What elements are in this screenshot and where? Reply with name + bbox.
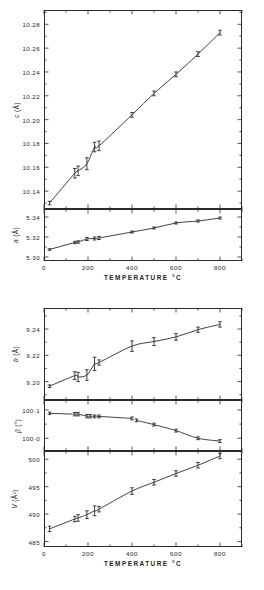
figure-top-group: c (Å) 10.1410.1610.1810.2010.2210.2410.2… (0, 0, 264, 292)
y-axis-label-b: b (Å) (13, 346, 20, 362)
y-axis-label-c: c (Å) (13, 102, 20, 117)
y-tick-label: 490 (28, 511, 40, 518)
y-tick-label: 5.30 (26, 254, 40, 261)
plot-panel-c-axis: c (Å) 10.1410.1610.1810.2010.2210.2410.2… (44, 10, 242, 209)
plot-panel-a-axis: a (Å) TEMPERATURE °C 5.305.325.340200400… (44, 209, 242, 261)
plot-area-a-axis (44, 209, 242, 261)
data-point-error-bar (152, 480, 156, 485)
x-tick-label: 600 (170, 264, 182, 271)
plot-panel-beta-angle: β (°) 100·0100·1 (44, 400, 242, 451)
data-point-error-bar (196, 463, 200, 468)
plot-panel-cell-volume: V (Å³) TEMPERATURE °C 485490495500020040… (44, 451, 242, 547)
x-tick-label: 600 (170, 550, 182, 557)
plot-area-b-axis (44, 308, 242, 400)
y-axis-label-a: a (Å) (13, 227, 20, 243)
data-point-error-bar (97, 360, 101, 365)
y-tick-label: 9.24 (26, 326, 40, 333)
figure-bottom-group: b (Å) 9.209.229.24 β (°) 100·0100·1 V (Å… (0, 296, 264, 590)
data-point-error-bar (85, 158, 89, 170)
y-tick-label: 495 (28, 483, 40, 490)
plot-area-beta-angle (44, 400, 242, 451)
data-point-error-bar (85, 370, 89, 381)
y-tick-label: 10.16 (23, 164, 40, 171)
x-axis-label-top: TEMPERATURE °C (104, 274, 182, 281)
x-tick-label: 800 (214, 550, 226, 557)
plot-area-cell-volume (44, 451, 242, 547)
y-tick-label: 100·0 (22, 435, 40, 442)
x-tick-label: 200 (82, 550, 94, 557)
data-point-error-bar (174, 471, 178, 476)
y-tick-label: 10.14 (23, 188, 40, 195)
plot-panel-b-axis: b (Å) 9.209.229.24 (44, 308, 242, 400)
x-tick-label: 800 (214, 264, 226, 271)
data-point-error-bar (218, 453, 222, 458)
x-tick-label: 200 (82, 264, 94, 271)
y-tick-label: 10.22 (23, 92, 40, 99)
y-tick-label: 100·1 (22, 406, 40, 413)
data-point-error-bar (48, 385, 52, 388)
data-point-error-bar (130, 488, 134, 495)
x-tick-label: 400 (126, 550, 138, 557)
y-axis-label-cell-volume: V (Å³) (11, 489, 18, 508)
data-point-error-bar (73, 516, 77, 521)
y-tick-label: 10.18 (23, 140, 40, 147)
x-tick-label: 0 (42, 264, 46, 271)
y-tick-label: 10.20 (23, 116, 40, 123)
data-point-error-bar (97, 506, 101, 511)
y-tick-label: 5.34 (26, 214, 40, 221)
data-point-error-bar (73, 168, 77, 178)
y-tick-label: 5.32 (26, 234, 40, 241)
x-tick-label: 400 (126, 264, 138, 271)
plot-area-c-axis (44, 10, 242, 209)
data-point-error-bar (85, 511, 89, 519)
y-tick-label: 10.28 (23, 21, 40, 28)
y-tick-label: 485 (28, 538, 40, 545)
data-point-error-bar (97, 141, 101, 151)
y-tick-label: 9.22 (26, 352, 40, 359)
y-tick-label: 10.24 (23, 68, 40, 75)
y-tick-label: 500 (28, 456, 40, 463)
data-point-error-bar (48, 526, 52, 531)
y-tick-label: 9.20 (26, 378, 40, 385)
x-tick-label: 0 (42, 550, 46, 557)
y-axis-label-beta: β (°) (13, 418, 20, 432)
y-tick-label: 10.26 (23, 45, 40, 52)
x-axis-label-bottom: TEMPERATURE °C (104, 560, 182, 567)
